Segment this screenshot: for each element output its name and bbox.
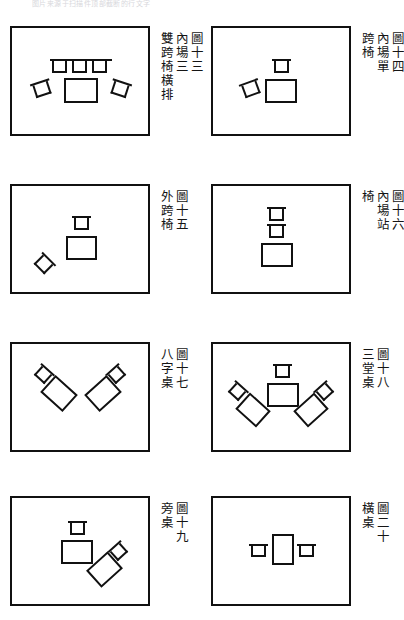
caption-column: 三堂桌 <box>359 348 373 390</box>
page-header-faint-text: 图片来源于扫描件顶部截断的行文字 <box>32 0 162 9</box>
caption-column: 圖十四 <box>389 32 403 74</box>
chair-upper-chair <box>269 209 284 221</box>
figure-panel: 圖十七八字桌 <box>10 342 187 458</box>
chair-center-chair <box>275 366 290 378</box>
chair-left-facing-chair <box>251 546 266 557</box>
figure-grid: 圖十三內場三雙跨椅橫排圖十四內場單跨椅圖十五外跨椅圖十六內場站椅圖十七八字桌圖十… <box>0 12 402 620</box>
caption-column: 圖二十 <box>374 502 388 544</box>
caption-column: 跨椅 <box>359 32 373 60</box>
table-center-table <box>267 383 299 407</box>
stage-box <box>10 496 150 606</box>
caption-column: 圖十三 <box>188 32 202 74</box>
chair-back-center-chair <box>74 218 89 230</box>
center-table-table <box>261 243 293 267</box>
figure-caption: 圖十六內場站椅 <box>358 184 403 300</box>
caption-column: 內場三 <box>173 32 187 74</box>
stage-box <box>211 184 351 294</box>
caption-column: 旁桌 <box>158 502 172 530</box>
caption-column: 圖十七 <box>173 348 187 390</box>
figure-caption: 圖十四內場單跨椅 <box>358 26 403 142</box>
table-vertical-table <box>272 534 294 565</box>
caption-column: 八字桌 <box>158 348 172 390</box>
figure-panel: 圖十三內場三雙跨椅橫排 <box>10 26 202 142</box>
caption-column: 圖十九 <box>173 502 187 544</box>
stage-box <box>211 26 351 136</box>
stage-box <box>211 496 351 606</box>
chair-back-left-chair <box>52 61 67 73</box>
figure-panel: 圖十八三堂桌 <box>211 342 388 458</box>
stage-box <box>10 184 150 294</box>
chair-back-right-chair <box>92 61 107 73</box>
stage-box <box>211 342 351 452</box>
chair-main-chair <box>70 523 85 535</box>
caption-column: 內場站 <box>374 190 388 232</box>
figure-caption: 圖十九旁桌 <box>157 496 187 612</box>
caption-column: 圖十五 <box>173 190 187 232</box>
chair-lower-chair <box>269 226 284 238</box>
caption-column: 雙跨椅橫排 <box>158 32 172 102</box>
chair-side-right-chair <box>110 81 129 98</box>
chair-side-left-chair <box>241 81 260 99</box>
figure-panel: 圖十九旁桌 <box>10 496 187 612</box>
caption-column: 椅 <box>359 190 373 204</box>
figure-panel: 圖二十橫桌 <box>211 496 388 612</box>
figure-caption: 圖十五外跨椅 <box>157 184 187 300</box>
figure-caption: 圖十七八字桌 <box>157 342 187 458</box>
figure-panel: 圖十六內場站椅 <box>211 184 403 300</box>
stage-box <box>10 342 150 452</box>
chair-back-center-chair <box>72 61 87 73</box>
figure-caption: 圖十三內場三雙跨椅橫排 <box>157 26 202 142</box>
caption-column: 圖十八 <box>374 348 388 390</box>
figure-caption: 圖十八三堂桌 <box>358 342 388 458</box>
chair-right-facing-chair <box>299 546 314 557</box>
figure-panel: 圖十五外跨椅 <box>10 184 187 300</box>
figure-panel: 圖十四內場單跨椅 <box>211 26 403 142</box>
center-table-table <box>265 79 297 103</box>
stage-box <box>10 26 150 136</box>
chair-lower-left-45-chair <box>34 255 54 275</box>
chair-side-left-chair <box>32 81 51 98</box>
caption-column: 外跨椅 <box>158 190 172 232</box>
caption-column: 圖十六 <box>389 190 403 232</box>
caption-column: 橫桌 <box>359 502 373 530</box>
table-main-table <box>61 540 93 564</box>
caption-column: 內場單 <box>374 32 388 74</box>
figure-caption: 圖二十橫桌 <box>358 496 388 612</box>
chair-back-center-chair <box>274 61 289 73</box>
center-table-table <box>66 236 97 260</box>
center-table-table <box>64 78 98 103</box>
